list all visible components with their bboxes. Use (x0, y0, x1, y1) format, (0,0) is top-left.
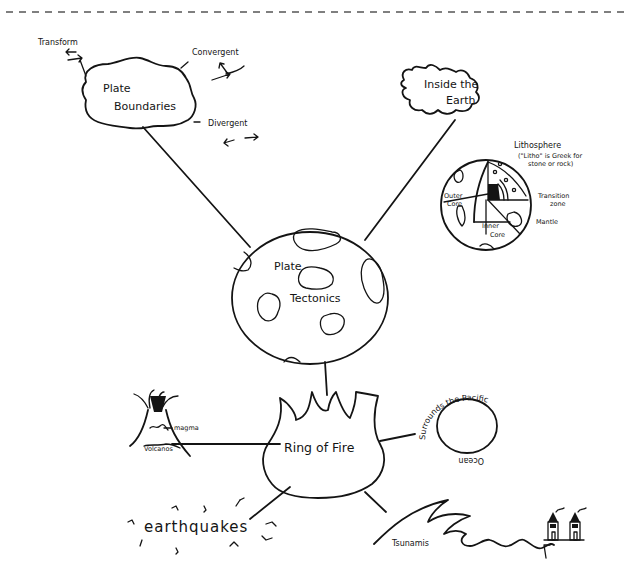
house-left-door (552, 532, 555, 540)
eruption-plume-fill (150, 396, 166, 412)
continent-shape (258, 293, 281, 321)
inner-core-label-2: Core (490, 231, 505, 239)
inside-earth-label-1: Inside the (424, 78, 479, 91)
continent-shape (320, 313, 344, 334)
continent-shape (234, 252, 251, 271)
plate-tectonics-node: Plate Tectonics (232, 229, 388, 364)
connector-center-to-ring (325, 362, 327, 395)
magma-label: magma (174, 424, 199, 432)
continent-shape (480, 244, 494, 249)
outer-core-label-1: Outer (444, 192, 463, 200)
plate-boundaries-label-2: Boundaries (114, 100, 176, 113)
pacific-ocean-label-top: Surrounds the Pacific (418, 393, 489, 440)
mantle-dot (512, 188, 515, 191)
volcano-node: magma Volcanos (130, 390, 199, 456)
continent-shape (507, 212, 521, 226)
inner-core-fill (488, 184, 500, 200)
house-left-window (550, 524, 556, 528)
lithosphere-note-2: stone or rock) (528, 160, 573, 168)
inner-core-label-1: Inner (482, 222, 499, 230)
inside-earth-node: Inside the Earth (401, 65, 479, 114)
plate-boundaries-label-1: Plate (103, 82, 131, 95)
tsunamis-label: Tsunamis (391, 539, 429, 548)
continent-shape (454, 170, 463, 182)
plate-tectonics-label-2: Tectonics (289, 292, 341, 305)
earthquakes-node: earthquakes (128, 498, 276, 554)
mantle-dot (504, 178, 507, 181)
shore-line (544, 545, 550, 558)
convergent-label: Convergent (192, 48, 239, 57)
lithosphere-note-1: ("Litho" is Greek for (518, 152, 583, 160)
ring-of-fire-node: Ring of Fire (263, 392, 384, 498)
convergent-arrows-icon (212, 63, 244, 80)
connector-ring-to-tsunamis (365, 492, 386, 512)
transform-label: Transform (37, 38, 78, 47)
plate-tectonics-concept-map: Plate Boundaries Transform Convergent Di… (0, 0, 633, 585)
plate-boundaries-node: Plate Boundaries Transform Convergent Di… (37, 38, 258, 146)
continent-shape (361, 259, 384, 303)
house-right-roof (570, 512, 580, 522)
plate-boundaries-cloud (82, 58, 195, 129)
earthquakes-label: earthquakes (144, 518, 248, 536)
house-right-window (572, 524, 578, 528)
mantle-label: Mantle (536, 218, 558, 226)
pacific-ocean-label-bottom: Ocean (458, 456, 484, 465)
volcanos-label: Volcanos (144, 445, 173, 453)
mantle-dot (498, 162, 501, 165)
lithosphere-label: Lithosphere (514, 141, 561, 150)
outer-core-label-2: Core (447, 200, 462, 208)
magma-chamber-icon (150, 425, 168, 430)
pacific-ocean-node: Surrounds the Pacific Ocean (418, 393, 497, 465)
connector-lines (143, 120, 455, 519)
ring-of-fire-label: Ring of Fire (284, 440, 355, 455)
connector-ring-to-pacific (380, 434, 415, 441)
mantle-dot (493, 170, 496, 173)
divergent-label: Divergent (208, 119, 247, 128)
connector-earth-to-center (365, 120, 455, 240)
divergent-arrows-icon (224, 134, 258, 146)
plate-tectonics-label-1: Plate (274, 260, 302, 273)
continent-shape (457, 206, 465, 226)
tsunami-node: Tsunamis (374, 500, 586, 558)
earth-cross-section: Lithosphere ("Litho" is Greek for stone … (441, 141, 583, 250)
transition-zone-label-2: zone (550, 200, 566, 208)
inside-earth-label-2: Earth (446, 94, 476, 107)
convergent-tick (181, 62, 188, 68)
continent-shape (299, 267, 334, 290)
chimney-smoke-icon (556, 508, 586, 512)
transform-tick (80, 60, 86, 76)
house-left-roof (548, 512, 558, 522)
house-right-door (574, 532, 577, 540)
connector-boundaries-to-center (143, 127, 250, 247)
transition-zone-label-1: Transition (537, 192, 569, 200)
houses-icon (544, 508, 586, 540)
